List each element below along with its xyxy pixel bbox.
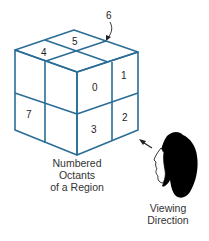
viewer-caption-line-2: Direction: [138, 214, 198, 226]
caption-line-3: of a Region: [41, 181, 113, 193]
caption-line-1: Numbered: [41, 157, 113, 169]
octant-label-4: 4: [41, 47, 47, 58]
viewer-caption: Viewing Direction: [138, 202, 198, 226]
cube: [15, 30, 138, 155]
cube-left-face: [15, 50, 77, 155]
octant-label-2: 2: [122, 112, 128, 123]
octant-6-pointer-arrow: [106, 22, 112, 41]
viewer-caption-line-1: Viewing: [138, 202, 198, 214]
octant-label-3: 3: [91, 124, 97, 135]
right-horizontal-divider: [77, 93, 138, 114]
octant-label-1: 1: [121, 70, 127, 81]
octant-label-5: 5: [72, 36, 78, 47]
octant-label-0: 0: [92, 82, 98, 93]
caption-line-2: Octants: [41, 169, 113, 181]
diagram-caption: Numbered Octants of a Region: [41, 157, 113, 193]
left-horizontal-divider: [15, 93, 77, 114]
viewing-direction-arrow: [139, 139, 152, 148]
octant-label-7: 7: [26, 109, 32, 120]
octant-label-6: 6: [106, 10, 112, 21]
viewer-head-icon: [154, 132, 198, 198]
